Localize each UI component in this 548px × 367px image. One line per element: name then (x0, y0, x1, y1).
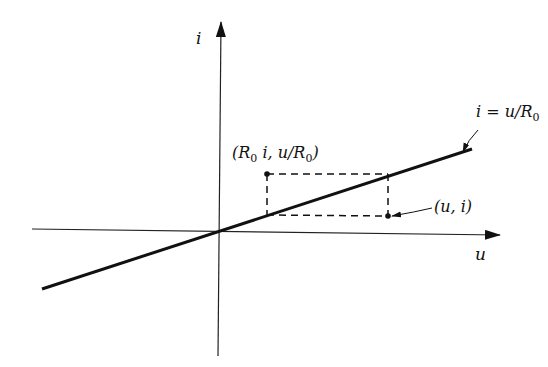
i-axis (218, 22, 221, 356)
equation-text: i = u/R (476, 102, 532, 121)
point-marker (385, 213, 391, 219)
equation-label: i = u/R0 (476, 102, 539, 124)
u-axis-label: u (475, 244, 486, 264)
equation-subscript: 0 (532, 111, 539, 124)
i-axis-label: i (196, 28, 201, 48)
dual-point-marker (264, 171, 270, 177)
point-leader-arrow (392, 208, 432, 216)
u-axis (32, 229, 500, 235)
dual-label-sub2: 0 (305, 152, 312, 165)
dual-point-label: (R0 i, u/R0) (232, 143, 319, 165)
dual-label-sub1: 0 (250, 152, 257, 165)
diagram-canvas: i u i = u/R0 (u, i) (R0 i, u/R0) (0, 0, 548, 367)
dual-label-open: (R (232, 143, 250, 162)
dual-label-mid: i, u/R (257, 143, 305, 162)
dual-label-close: ) (311, 143, 318, 162)
point-label: (u, i) (434, 197, 472, 216)
characteristic-line (42, 149, 472, 289)
